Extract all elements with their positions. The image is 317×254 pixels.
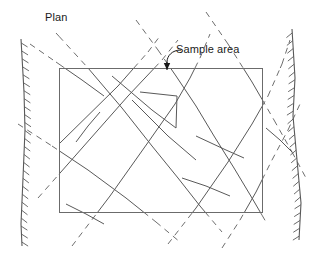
- trace-solid-part: [200, 206, 205, 212]
- boundary-hatch-tick: [290, 142, 296, 147]
- boundary-hatch-tick: [21, 234, 27, 238]
- segment-short-mid-left: [76, 112, 100, 142]
- interior-trace-segments-group: [66, 76, 292, 224]
- trace-dashed-part: [262, 160, 272, 180]
- trace-dashed-part: [205, 212, 222, 232]
- boundary-hatch-tick: [24, 91, 30, 95]
- trace-solid-part: [88, 170, 126, 198]
- boundary-hatch-tick: [22, 194, 28, 199]
- boundary-hatch-tick: [289, 80, 295, 84]
- trace-solid-part: [110, 141, 149, 196]
- trace-dashed-part: [134, 52, 148, 68]
- trace-solid-part: [126, 198, 144, 212]
- trace-dashed-part: [38, 174, 59, 198]
- boundary-hatch-tick: [294, 213, 300, 217]
- trace-dashed-part: [268, 68, 280, 96]
- trace-solid-part: [170, 68, 176, 76]
- boundary-hatch-tick: [287, 111, 293, 115]
- boundary-hatch-tick: [24, 107, 30, 111]
- boundary-hatch-tick: [23, 170, 29, 175]
- boundary-hatch-tick: [287, 49, 293, 54]
- trace-dashed-part: [59, 36, 88, 68]
- boundary-hatch-tick: [25, 139, 31, 144]
- figure-canvas: [0, 0, 317, 254]
- boundary-hatch-tick: [22, 202, 28, 207]
- boundary-hatch-tick: [24, 99, 30, 103]
- boundary-hatch-tick: [23, 186, 29, 191]
- trace-solid-part: [59, 86, 118, 144]
- trace-solid-part: [178, 178, 200, 206]
- trace-solid-part: [252, 82, 262, 99]
- trace-solid-part: [252, 198, 260, 212]
- boundary-hatch-tick: [288, 56, 294, 61]
- trace-solid-part: [59, 96, 128, 174]
- boundary-hatch-tick: [289, 72, 295, 77]
- trace-solid-part: [196, 106, 214, 136]
- boundary-hatch-tick: [288, 64, 294, 69]
- trace-dashed-part: [154, 60, 162, 68]
- boundary-hatch-tick: [23, 178, 29, 183]
- trace-solid-part: [98, 196, 110, 212]
- trace-solid-part: [234, 168, 252, 198]
- boundary-hatch-tick: [293, 181, 299, 186]
- trace-solid-part: [176, 76, 196, 106]
- trace-solid-part: [122, 108, 152, 146]
- trace-dashed-part: [222, 220, 240, 248]
- boundary-hatch-tick: [24, 154, 30, 159]
- trace-dashed-part: [195, 58, 200, 68]
- trace-dashed-part: [18, 124, 52, 146]
- boundary-hatch-tick: [288, 95, 294, 99]
- segment-zigzag-upper: [112, 76, 176, 128]
- trace-solid-part: [152, 146, 178, 178]
- boundary-hatch-tick: [293, 236, 299, 240]
- trace-dashed-part: [274, 120, 292, 152]
- plan-label: Plan: [45, 11, 67, 23]
- boundary-hatch-tick: [22, 59, 28, 63]
- trace-dashed-part: [156, 222, 180, 242]
- trace-dashed-part: [168, 212, 193, 244]
- trace-dashed-part: [30, 44, 56, 62]
- trace-solid-part: [65, 68, 82, 80]
- boundary-hatch-tick: [24, 146, 30, 151]
- trace-dashed-part: [292, 152, 306, 178]
- boundary-hatch-tick: [291, 158, 297, 163]
- boundary-hatch-tick: [25, 131, 31, 135]
- trace-solid-part: [252, 107, 262, 125]
- mapped-traces-group: [59, 68, 262, 212]
- boundary-hatch-tick: [287, 103, 293, 107]
- trace-dashed-part: [136, 20, 158, 50]
- boundary-hatch-tick: [23, 83, 29, 87]
- boundary-hatch-tick: [24, 162, 30, 167]
- plan-diagram-root: Plan Sample area: [0, 0, 317, 254]
- trace-dashed-part: [56, 33, 59, 36]
- boundary-hatch-tick: [21, 43, 27, 47]
- sample-area-rectangle: [60, 69, 263, 213]
- trace-dashed-part: [144, 212, 157, 222]
- trace-solid-part: [190, 68, 195, 78]
- boundary-hatch-tick: [21, 218, 27, 223]
- segment-zigzag-mid: [140, 92, 177, 128]
- trace-dashed-part: [72, 212, 98, 246]
- rock-boundaries-group: [21, 29, 301, 246]
- boundary-hatch-tick: [289, 135, 295, 140]
- boundary-hatch-tick: [25, 123, 31, 127]
- segment-short-right-1: [196, 136, 244, 158]
- boundary-hatch-tick: [293, 228, 299, 232]
- boundary-hatch-tick: [294, 220, 300, 224]
- sample-area-outline-group: [60, 69, 263, 213]
- trace-solid-part: [243, 68, 252, 82]
- boundary-hatch-tick: [25, 115, 31, 119]
- sample-area-label: Sample area: [176, 43, 239, 55]
- boundary-hatch-tick: [288, 119, 294, 124]
- trace-solid-part: [256, 180, 262, 192]
- trace-solid-part: [196, 162, 228, 208]
- trace-dashed-part: [206, 12, 228, 44]
- boundary-hatch-tick: [22, 210, 28, 215]
- boundary-hatch-tick: [22, 242, 28, 246]
- boundary-hatch-tick: [292, 166, 298, 171]
- trace-dashed-part: [240, 212, 245, 220]
- trace-dashed-part: [59, 64, 65, 68]
- right-rock-boundary: [292, 29, 301, 240]
- trace-solid-part: [149, 104, 175, 141]
- trace-dashed-part: [262, 215, 266, 222]
